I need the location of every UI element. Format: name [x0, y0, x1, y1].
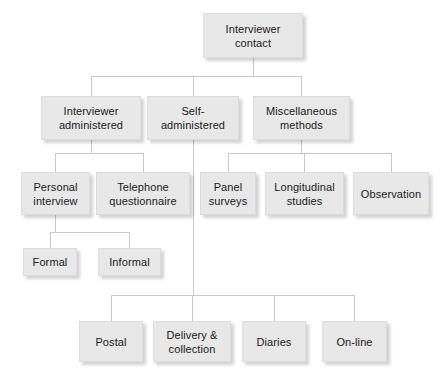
node-label-diaries: Diaries [247, 335, 301, 349]
node-label-observation: Observation [358, 187, 424, 201]
node-informal[interactable]: Informal [98, 248, 161, 276]
node-self-administered[interactable]: Self-administered [147, 96, 239, 140]
node-label-personal-interview: Personalinterview [26, 180, 85, 208]
node-personal-interview[interactable]: Personalinterview [21, 172, 90, 215]
node-label-miscellaneous-methods: Miscellaneousmethods [258, 104, 345, 132]
node-on-line[interactable]: On-line [322, 321, 387, 362]
node-miscellaneous-methods[interactable]: Miscellaneousmethods [253, 96, 350, 140]
node-label-informal: Informal [103, 255, 156, 269]
node-longitudinal-studies[interactable]: Longitudinalstudies [265, 172, 344, 215]
node-label-self-administered: Self-administered [152, 104, 234, 132]
node-label-delivery-and-collection: Delivery &collection [158, 328, 226, 356]
node-label-longitudinal-studies: Longitudinalstudies [270, 180, 339, 208]
node-label-postal: Postal [84, 335, 138, 349]
node-observation[interactable]: Observation [353, 172, 429, 215]
flowchart-diagram: InterviewercontactIntervieweradministere… [0, 0, 446, 377]
node-delivery-and-collection[interactable]: Delivery &collection [153, 321, 231, 362]
node-label-on-line: On-line [327, 335, 382, 349]
node-label-formal: Formal [28, 255, 72, 269]
node-label-telephone-questionnaire: Telephonequestionnaire [101, 180, 185, 208]
node-label-interviewer-contact: Interviewercontact [208, 22, 298, 50]
node-postal[interactable]: Postal [79, 321, 143, 362]
node-telephone-questionnaire[interactable]: Telephonequestionnaire [96, 172, 190, 215]
node-label-panel-surveys: Panelsurveys [205, 180, 251, 208]
node-label-interviewer-administered: Intervieweradministered [46, 104, 136, 132]
node-formal[interactable]: Formal [23, 248, 77, 276]
node-panel-surveys[interactable]: Panelsurveys [200, 172, 256, 215]
node-interviewer-administered[interactable]: Intervieweradministered [41, 96, 141, 140]
node-interviewer-contact[interactable]: Interviewercontact [203, 13, 303, 58]
node-diaries[interactable]: Diaries [242, 321, 306, 362]
